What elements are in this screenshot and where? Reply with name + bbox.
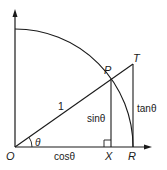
sin-label: sinθ xyxy=(87,113,106,124)
y-axis-arrow-icon xyxy=(13,9,18,17)
cos-label: cosθ xyxy=(54,151,76,162)
point-label-P: P xyxy=(104,64,112,76)
angle-arc xyxy=(29,137,32,147)
point-label-T: T xyxy=(133,52,141,64)
radius-label: 1 xyxy=(58,100,64,112)
point-label-R: R xyxy=(128,150,136,162)
unit-circle-arc xyxy=(15,29,133,147)
x-axis-arrow-icon xyxy=(144,145,152,150)
tan-label: tanθ xyxy=(137,103,157,114)
unit-circle-diagram: O P T X R 1 θ cosθ sinθ tanθ xyxy=(0,0,167,170)
point-label-X: X xyxy=(104,150,113,162)
point-label-O: O xyxy=(6,150,15,162)
right-angle-marker xyxy=(104,140,111,147)
radius-line-OT xyxy=(15,64,133,147)
angle-label: θ xyxy=(35,137,41,148)
